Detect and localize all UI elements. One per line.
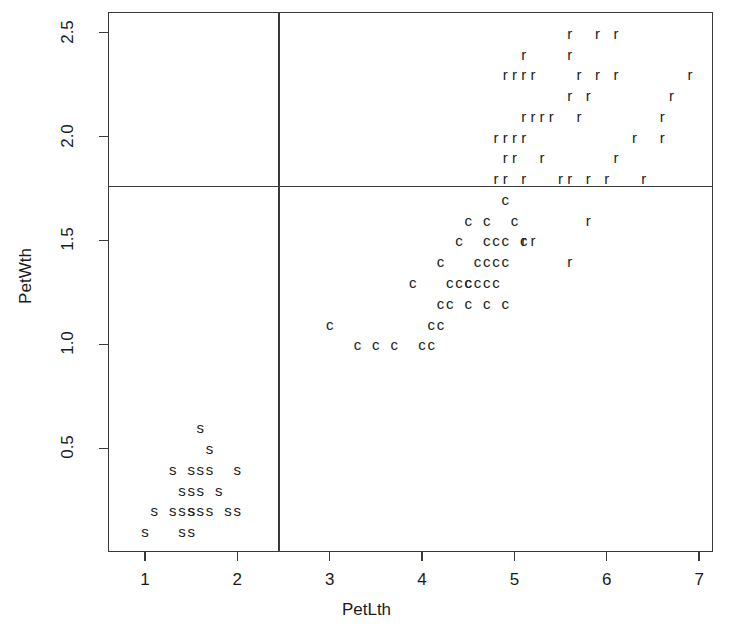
x-tick-mark [514, 552, 515, 561]
horizontal-partition [108, 186, 713, 188]
plot-frame [108, 12, 713, 552]
x-tick-mark [237, 552, 238, 561]
y-tick-label: 2.0 [58, 112, 78, 160]
y-tick-mark [99, 136, 108, 137]
y-tick-mark [99, 240, 108, 241]
y-tick-label: 1.0 [58, 319, 78, 367]
x-axis-label: PetLth [0, 600, 733, 620]
y-axis-label: PetWth [16, 206, 36, 346]
x-tick-label: 4 [417, 570, 426, 590]
y-tick-mark [99, 32, 108, 33]
x-tick-mark [421, 552, 422, 561]
x-tick-label: 3 [325, 570, 334, 590]
x-tick-label: 6 [602, 570, 611, 590]
y-tick-mark [99, 448, 108, 449]
y-tick-label: 0.5 [58, 423, 78, 471]
x-tick-mark [698, 552, 699, 561]
vertical-partition [278, 12, 280, 552]
y-tick-mark [99, 344, 108, 345]
x-tick-label: 5 [510, 570, 519, 590]
x-tick-label: 2 [233, 570, 242, 590]
x-tick-label: 1 [140, 570, 149, 590]
scatter-plot-figure: 1234567 0.51.01.52.02.5 ssssssssssssssss… [0, 0, 733, 640]
y-tick-label: 2.5 [58, 8, 78, 56]
y-tick-label: 1.5 [58, 215, 78, 263]
x-tick-label: 7 [694, 570, 703, 590]
scan-artifact [0, 628, 733, 640]
x-tick-mark [606, 552, 607, 561]
x-tick-mark [144, 552, 145, 561]
x-tick-mark [329, 552, 330, 561]
